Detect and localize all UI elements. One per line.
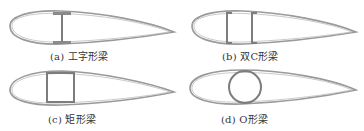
panel-c-rectangular: (c) 矩形梁 <box>0 65 182 130</box>
rectangular-spar <box>47 73 74 102</box>
panel-b-double-c: (b) 双C形梁 <box>182 0 364 65</box>
panel-d-o-shaped: (d) O形梁 <box>182 65 364 130</box>
airfoil-o-shaped-diagram <box>182 65 364 131</box>
caption-d: (d) O形梁 <box>221 111 268 126</box>
panel-a-i-beam: (a) 工字形梁 <box>0 0 182 65</box>
i-beam-spar <box>53 12 71 44</box>
caption-a: (a) 工字形梁 <box>50 48 109 63</box>
caption-c: (c) 矩形梁 <box>48 111 96 126</box>
caption-b: (b) 双C形梁 <box>222 48 279 63</box>
double-c-spar <box>227 13 257 43</box>
o-shaped-spar <box>229 71 261 103</box>
